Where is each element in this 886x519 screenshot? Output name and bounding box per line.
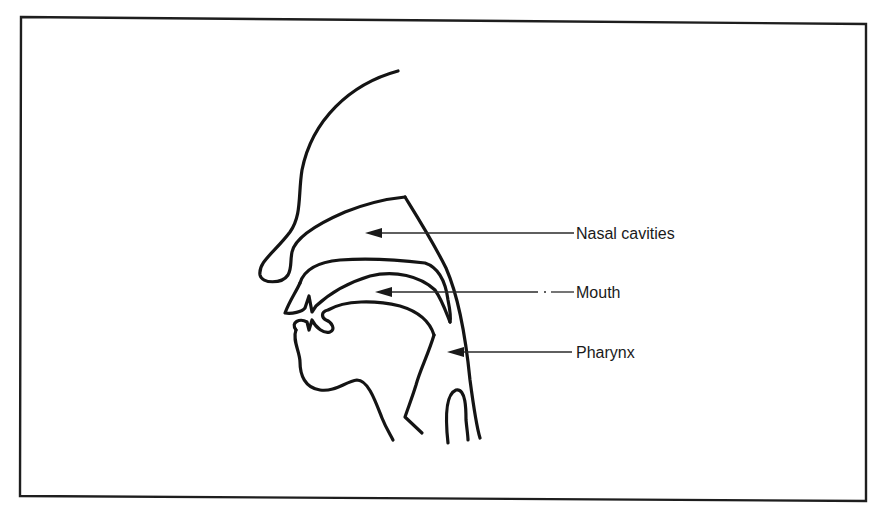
- vocal-tract-illustration: [0, 0, 886, 519]
- label-mouth: Mouth: [576, 285, 620, 301]
- pharynx-arrowhead: [447, 347, 464, 357]
- chin-jaw: [295, 330, 393, 440]
- tongue-root: [405, 335, 434, 433]
- nasal-cavities-arrowhead: [365, 228, 382, 238]
- label-nasal-cavities: Nasal cavities: [576, 226, 675, 242]
- upper-lip: [285, 274, 450, 322]
- larynx-outline: [446, 390, 468, 443]
- mouth-arrowhead: [375, 287, 392, 297]
- forehead-nose-outline: [260, 71, 405, 282]
- label-pharynx: Pharynx: [576, 345, 635, 361]
